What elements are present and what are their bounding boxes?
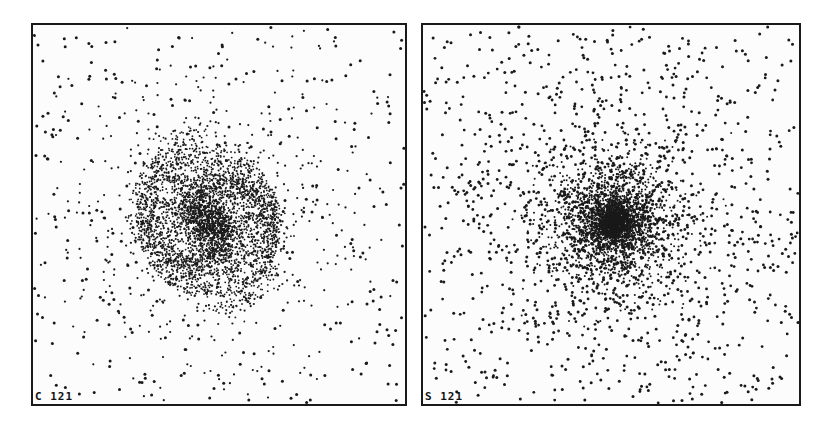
panel-s121: S 121 <box>421 23 801 406</box>
scatter-plot-c121 <box>33 25 405 404</box>
panel-label-s121: S 121 <box>425 390 463 403</box>
panel-label-c121: C 121 <box>35 390 73 403</box>
scatter-plot-s121 <box>423 25 799 404</box>
panel-c121: C 121 <box>31 23 407 406</box>
